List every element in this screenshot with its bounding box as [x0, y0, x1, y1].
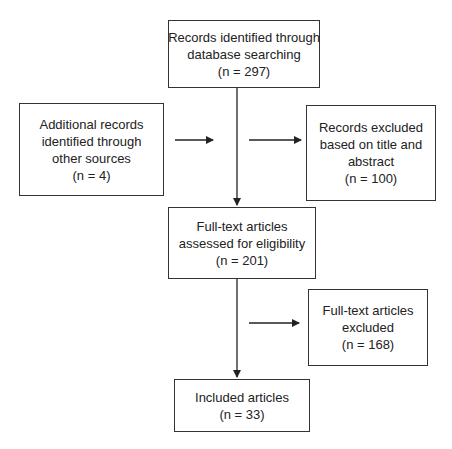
box-fulltext-excluded: Full-text articles excluded (n = 168)	[308, 289, 428, 366]
box-line: Additional records	[39, 116, 143, 133]
box-line: other sources	[52, 150, 131, 167]
box-fulltext-assessed: Full-text articles assessed for eligibil…	[168, 207, 316, 279]
box-included-articles: Included articles (n = 33)	[174, 379, 310, 432]
box-line: (n = 168)	[342, 336, 394, 353]
box-line: database searching	[187, 46, 300, 63]
box-line: Included articles	[195, 389, 289, 406]
box-line: based on title and	[320, 136, 423, 153]
box-line: (n = 100)	[345, 170, 397, 187]
box-line: (n = 297)	[218, 63, 270, 80]
box-line: Full-text articles	[196, 218, 287, 235]
box-line: Full-text articles	[322, 302, 413, 319]
box-line: assessed for eligibility	[179, 235, 305, 252]
box-line: (n = 33)	[219, 406, 264, 423]
box-excluded-title-abstract: Records excluded based on title and abst…	[306, 105, 436, 201]
box-database-search: Records identified through database sear…	[168, 20, 320, 88]
box-line: identified through	[42, 133, 142, 150]
box-line: excluded	[342, 319, 394, 336]
box-line: (n = 4)	[73, 167, 111, 184]
box-line: Records identified through	[168, 29, 320, 46]
box-line: Records excluded	[319, 119, 423, 136]
box-additional-records: Additional records identified through ot…	[19, 103, 164, 196]
box-line: abstract	[348, 153, 394, 170]
box-line: (n = 201)	[216, 252, 268, 269]
